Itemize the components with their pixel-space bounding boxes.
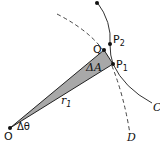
label-curve-d: D <box>127 132 136 143</box>
point-q <box>102 48 106 52</box>
label-origin: O <box>4 131 13 142</box>
label-delta-a: ΔA <box>86 62 102 73</box>
point-p1 <box>111 62 115 66</box>
label-delta-theta: Δθ <box>17 122 30 132</box>
label-p2: P2 <box>113 34 125 48</box>
label-p1: P1 <box>116 59 128 73</box>
label-q: Q <box>93 44 102 55</box>
polar-area-diagram: O Δθ Q P2 P1 ΔA r1 C D <box>0 0 160 146</box>
point-top <box>95 1 99 5</box>
label-curve-c: C <box>153 102 160 113</box>
point-p2 <box>108 42 112 46</box>
label-r1: r1 <box>61 95 71 109</box>
